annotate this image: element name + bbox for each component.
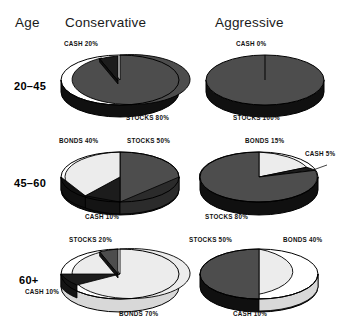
pie-cons-45-60: BONDS 40% STOCKS 50% CASH 10% — [55, 149, 185, 211]
header-age: Age — [15, 15, 40, 30]
pie-cons-20-45: CASH 20% STOCKS 80% — [55, 52, 185, 112]
slice-label-stocks: STOCKS 100% — [233, 114, 280, 121]
slice-label-cash: CASH 10% — [85, 213, 119, 220]
header-conservative: Conservative — [65, 15, 146, 30]
slice-label-bonds: BONDS 70% — [119, 310, 158, 317]
slice-label-stocks: STOCKS 80% — [126, 114, 169, 121]
age-label-20-45: 20–45 — [14, 80, 46, 92]
slice-label-stocks: STOCKS 20% — [69, 236, 112, 243]
slice-label-cash: CASH 0% — [236, 40, 266, 47]
slice-label-bonds: BONDS 40% — [283, 236, 322, 243]
header-aggressive: Aggressive — [215, 15, 284, 30]
slice-label-cash: CASH 10% — [233, 310, 267, 317]
slice-label-bonds: BONDS 15% — [245, 137, 284, 144]
pie-aggr-20-45: CASH 0% STOCKS 100% — [200, 52, 330, 112]
age-label-45-60: 45–60 — [14, 177, 46, 189]
slice-label-stocks: STOCKS 80% — [205, 213, 248, 220]
slice-label-stocks: STOCKS 50% — [127, 137, 170, 144]
pie-aggr-45-60: BONDS 15% CASH 5% STOCKS 80% — [193, 149, 325, 211]
pie-chart-grid: Age Conservative Aggressive 20–45 45–60 … — [0, 0, 348, 323]
slice-label-stocks: STOCKS 50% — [189, 236, 232, 243]
slice-label-bonds: BONDS 40% — [59, 137, 98, 144]
pie-aggr-60plus: STOCKS 50% BONDS 40% CASH 10% — [193, 248, 325, 308]
pie-cons-60plus: STOCKS 20% CASH 10% BONDS 70% — [55, 248, 185, 308]
slice-label-cash: CASH 20% — [64, 40, 98, 47]
age-label-60-plus: 60+ — [19, 274, 39, 286]
slice-label-cash: CASH 10% — [25, 288, 59, 295]
slice-label-cash: CASH 5% — [305, 150, 335, 157]
